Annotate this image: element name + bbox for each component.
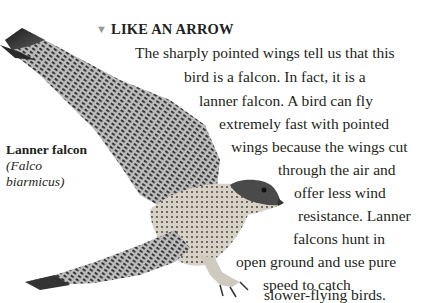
body-line: extremely fast with pointed	[219, 116, 389, 132]
triangle-marker-icon: ▼	[96, 23, 107, 35]
body-line: resistance. Lanner	[298, 208, 411, 224]
heading-title: LIKE AN ARROW	[111, 21, 234, 37]
body-line: through the air and	[278, 162, 396, 178]
body-line: wings because the wings cut	[231, 139, 408, 155]
body-line: slower-flying birds.	[264, 287, 386, 303]
section-heading: ▼LIKE AN ARROW	[96, 21, 234, 38]
body-line: offer less wind	[294, 185, 386, 201]
common-name: Lanner falcon	[6, 142, 87, 158]
body-line: lanner falcon. A bird can fly	[199, 93, 373, 109]
latin-name-line1: (Falco	[6, 158, 87, 174]
species-caption: Lanner falcon (Falco biarmicus)	[6, 142, 87, 190]
body-line: bird is a falcon. In fact, it is a	[184, 69, 366, 85]
body-line: The sharply pointed wings tell us that t…	[135, 45, 395, 61]
body-line: falcons hunt in	[293, 231, 385, 247]
body-line: open ground and use pure	[236, 254, 396, 270]
latin-name-line2: biarmicus)	[6, 174, 87, 190]
